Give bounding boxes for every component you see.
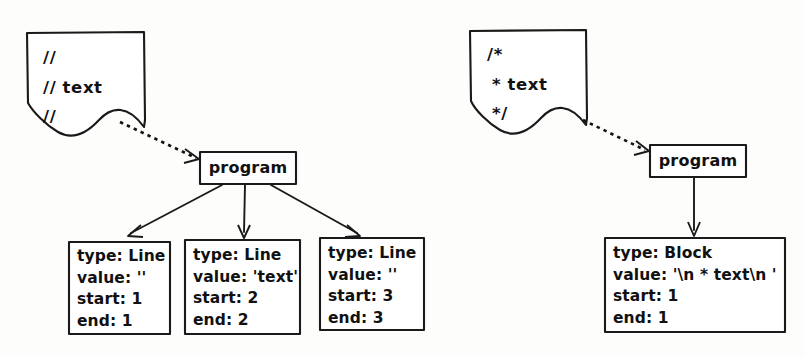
dashed-edge-right [583,120,645,150]
node-field-start: start: 1 [613,289,783,305]
source-line: // [43,109,148,126]
source-line: // [43,50,148,67]
node-field-type: type: Block [613,246,783,262]
source-line: * text [492,77,587,94]
line-node-2[interactable]: type: Line value: 'text' start: 2 end: 2 [193,248,297,328]
source-line: */ [492,106,587,123]
node-field-type: type: Line [328,246,422,262]
source-line: /* [487,47,587,64]
program-node-label: program [209,160,288,176]
source-line: // text [43,80,148,97]
program-node-left[interactable]: program [200,152,296,184]
program-node-right[interactable]: program [650,145,746,177]
edge-program-to-node-1 [131,185,222,233]
program-node-label: program [659,153,738,169]
node-field-value: value: '\n * text\n ' [613,268,783,284]
node-field-value: value: '' [77,271,167,287]
node-field-start: start: 2 [193,291,297,307]
node-field-value: value: '' [328,268,422,284]
dashed-edge-left [120,122,196,158]
diagram-canvas: // // text // program type: Line value: … [0,0,804,356]
edge-program-to-node-3 [271,185,357,233]
node-field-type: type: Line [77,249,167,265]
node-field-start: start: 3 [328,289,422,305]
node-field-type: type: Line [193,248,297,264]
block-comment-source: /* * text */ [487,47,587,123]
line-node-3[interactable]: type: Line value: '' start: 3 end: 3 [328,246,422,326]
node-field-end: end: 1 [613,311,783,327]
dashed-edge-right-arrowhead [634,141,649,155]
block-node-1[interactable]: type: Block value: '\n * text\n ' start:… [613,246,783,326]
node-field-start: start: 1 [77,292,167,308]
line-comment-source: // // text // [43,50,148,126]
line-node-1[interactable]: type: Line value: '' start: 1 end: 1 [77,249,167,329]
node-field-end: end: 2 [193,313,297,329]
node-field-end: end: 3 [328,311,422,327]
node-field-end: end: 1 [77,314,167,330]
node-field-value: value: 'text' [193,270,297,286]
edge-program-to-node-2 [244,185,245,232]
